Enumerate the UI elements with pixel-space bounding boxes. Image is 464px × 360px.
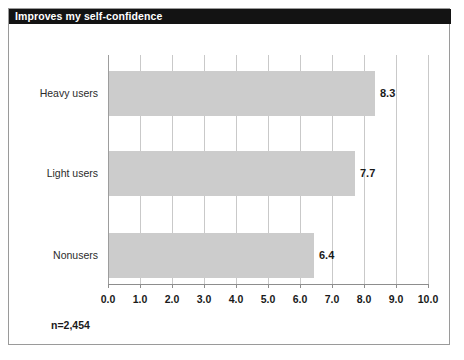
bar <box>109 233 314 278</box>
x-axis-line <box>108 284 429 285</box>
chart-figure: Improves my self-confidence 0.01.02.03.0… <box>8 8 450 345</box>
bar-value-label: 8.3 <box>380 87 395 99</box>
sample-size-note: n=2,454 <box>51 319 90 331</box>
bar-value-label: 6.4 <box>319 249 334 261</box>
gridline <box>396 55 397 284</box>
chart-title: Improves my self-confidence <box>15 10 162 22</box>
x-axis-tick-label: 10.0 <box>408 293 448 305</box>
category-label: Light users <box>0 167 98 179</box>
gridline <box>428 55 429 284</box>
category-label: Nonusers <box>0 249 98 261</box>
bar <box>109 151 355 196</box>
chart-title-bar: Improves my self-confidence <box>9 9 451 24</box>
bar-value-label: 7.7 <box>360 167 375 179</box>
category-label: Heavy users <box>0 87 98 99</box>
bar <box>109 71 375 116</box>
